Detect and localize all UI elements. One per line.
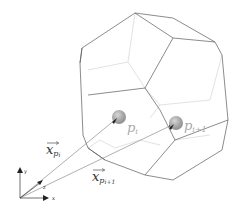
svg-text:xpi: xpi — [46, 142, 60, 158]
label-pi: pi — [127, 120, 138, 136]
polyhedron-front-edges — [80, 13, 228, 180]
x-axis-arrow-icon — [43, 195, 49, 201]
voronoi-diagram: pi pi+1 xpi xpi+1 y z x — [0, 0, 240, 214]
label-pi1: pi+1 — [184, 118, 207, 134]
label-x-pi: xpi — [46, 142, 60, 159]
svg-text:xpi+1: xpi+1 — [92, 169, 115, 185]
axis-label-y: y — [24, 168, 27, 175]
axis-label-x: x — [52, 195, 55, 201]
axis-label-z: z — [43, 184, 46, 190]
y-axis-arrow-icon — [17, 167, 23, 173]
label-x-pi1: xpi+1 — [92, 169, 115, 186]
